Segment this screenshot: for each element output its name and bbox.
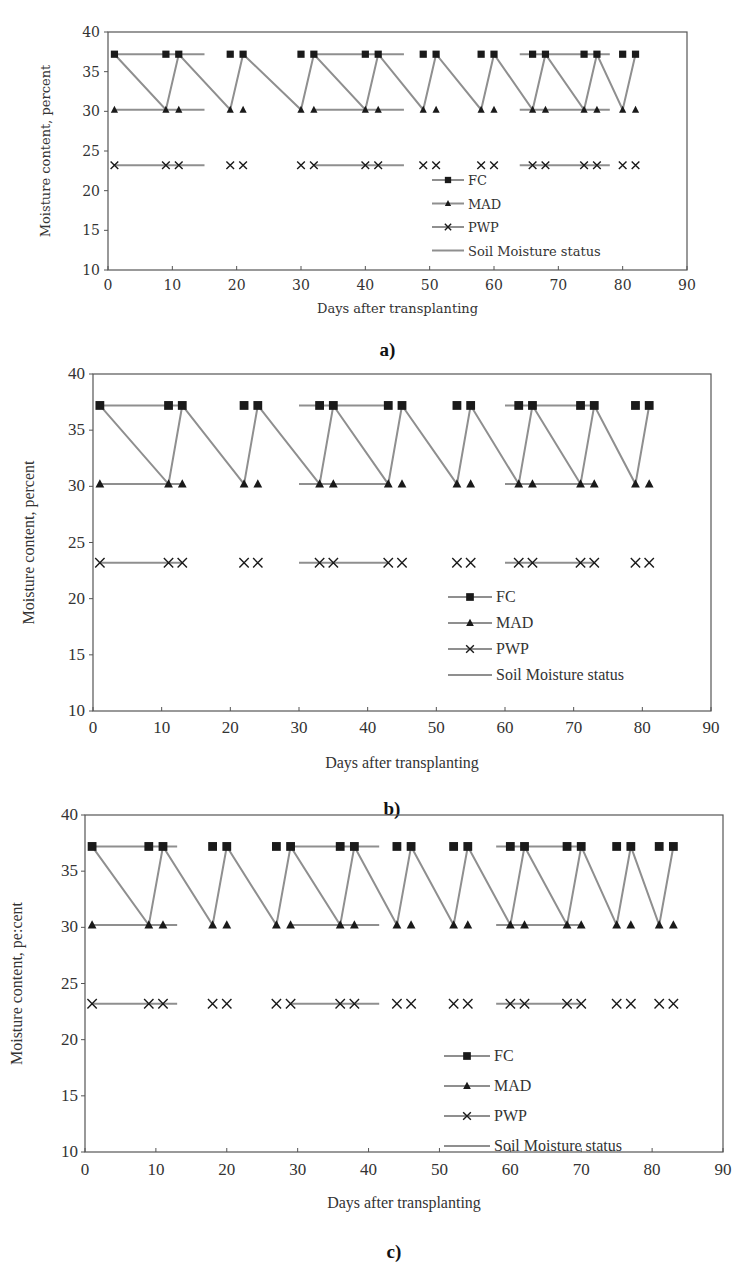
y-tick-label: 15 bbox=[82, 222, 100, 238]
legend-item-pwp: PWP bbox=[444, 1107, 527, 1124]
legend-item-soil-moisture-status: Soil Moisture status bbox=[432, 244, 601, 259]
fc-point bbox=[227, 51, 234, 58]
fc-point bbox=[520, 842, 529, 851]
legend-item-fc: FC bbox=[444, 1047, 514, 1064]
fc-point bbox=[253, 401, 262, 410]
mad-point bbox=[490, 106, 497, 113]
legend-label: PWP bbox=[468, 220, 499, 235]
fc-point bbox=[178, 401, 187, 410]
fc-point bbox=[631, 401, 640, 410]
x-tick-label: 40 bbox=[359, 718, 376, 737]
fc-point bbox=[612, 842, 621, 851]
legend: FCMADPWPSoil Moisture status bbox=[432, 173, 601, 259]
legend-label: Soil Moisture status bbox=[494, 1137, 622, 1154]
x-tick-label: 40 bbox=[356, 277, 374, 293]
fc-point bbox=[315, 401, 324, 410]
legend-label: FC bbox=[496, 588, 516, 605]
y-tick-label: 25 bbox=[61, 974, 78, 993]
x-tick-label: 80 bbox=[644, 1160, 661, 1179]
y-tick-label: 35 bbox=[82, 64, 100, 80]
fc-point bbox=[449, 842, 458, 851]
mad-point bbox=[393, 920, 402, 928]
y-tick-label: 20 bbox=[68, 589, 85, 608]
y-tick-label: 40 bbox=[82, 24, 100, 40]
mad-point bbox=[433, 106, 440, 113]
fc-point bbox=[478, 51, 485, 58]
fc-point bbox=[626, 842, 635, 851]
fc-point bbox=[208, 842, 217, 851]
mad-point bbox=[407, 920, 416, 928]
x-tick-label: 70 bbox=[549, 277, 567, 293]
fc-point bbox=[222, 842, 231, 851]
x-tick-label: 30 bbox=[292, 277, 310, 293]
legend-square-icon bbox=[463, 1052, 471, 1060]
fc-point bbox=[463, 842, 472, 851]
plot-frame bbox=[108, 32, 687, 270]
legend-square-icon bbox=[445, 177, 451, 183]
pwp-point bbox=[655, 999, 664, 1008]
pwp-point bbox=[406, 999, 415, 1008]
pwp-point bbox=[452, 558, 461, 567]
fc-point bbox=[350, 842, 359, 851]
mad-point bbox=[466, 479, 475, 487]
x-tick-label: 50 bbox=[431, 1160, 448, 1179]
pwp-point bbox=[626, 999, 635, 1008]
fc-point bbox=[362, 51, 369, 58]
fc-point bbox=[563, 842, 572, 851]
pwp-point bbox=[239, 558, 248, 567]
x-tick-label: 20 bbox=[228, 277, 246, 293]
plot-frame bbox=[93, 374, 711, 711]
fc-point bbox=[593, 51, 600, 58]
pwp-point bbox=[631, 558, 640, 567]
y-tick-label: 10 bbox=[68, 701, 85, 720]
pwp-point bbox=[272, 999, 281, 1008]
legend-label: MAD bbox=[468, 197, 501, 212]
fc-point bbox=[590, 401, 599, 410]
pwp-point bbox=[449, 999, 458, 1008]
mad-point bbox=[632, 106, 639, 113]
y-tick-label: 40 bbox=[61, 805, 78, 824]
x-tick-label: 0 bbox=[89, 718, 98, 737]
legend-item-mad: MAD bbox=[444, 1077, 531, 1094]
pwp-point bbox=[463, 999, 472, 1008]
legend-item-pwp: PWP bbox=[448, 640, 529, 657]
x-tick-label: 20 bbox=[218, 1160, 235, 1179]
y-tick-label: 20 bbox=[61, 1030, 78, 1049]
legend-label: MAD bbox=[496, 614, 533, 631]
fc-point bbox=[144, 842, 153, 851]
fc-point bbox=[272, 842, 281, 851]
x-axis-label: Days after transplanting bbox=[325, 754, 479, 772]
x-tick-label: 90 bbox=[703, 718, 720, 737]
fc-point bbox=[529, 51, 536, 58]
x-tick-label: 90 bbox=[678, 277, 696, 293]
y-tick-label: 40 bbox=[68, 364, 85, 383]
fc-point bbox=[159, 842, 168, 851]
mad-point bbox=[222, 920, 231, 928]
mad-point bbox=[669, 920, 678, 928]
y-tick-label: 35 bbox=[61, 861, 78, 880]
pwp-point bbox=[222, 999, 231, 1008]
x-tick-label: 50 bbox=[428, 718, 445, 737]
legend-item-mad: MAD bbox=[432, 197, 501, 212]
fc-point bbox=[506, 842, 515, 851]
pwp-point bbox=[669, 999, 678, 1008]
x-tick-label: 60 bbox=[485, 277, 503, 293]
pwp-point bbox=[432, 161, 440, 169]
fc-point bbox=[466, 401, 475, 410]
y-tick-label: 15 bbox=[68, 645, 85, 664]
legend-item-pwp: PWP bbox=[432, 220, 499, 235]
fc-point bbox=[310, 51, 317, 58]
fc-point bbox=[240, 51, 247, 58]
pwp-point bbox=[645, 558, 654, 567]
x-tick-label: 90 bbox=[715, 1160, 732, 1179]
x-tick-label: 10 bbox=[153, 718, 170, 737]
fc-point bbox=[420, 51, 427, 58]
fc-point bbox=[576, 401, 585, 410]
figure-stage: 101520253035400102030405060708090Days af… bbox=[0, 0, 748, 1270]
y-tick-label: 35 bbox=[68, 420, 85, 439]
figure-caption: b) bbox=[384, 798, 401, 820]
fc-point bbox=[240, 401, 249, 410]
mad-point bbox=[645, 479, 654, 487]
legend-label: PWP bbox=[494, 1107, 527, 1124]
pwp-point bbox=[239, 161, 247, 169]
